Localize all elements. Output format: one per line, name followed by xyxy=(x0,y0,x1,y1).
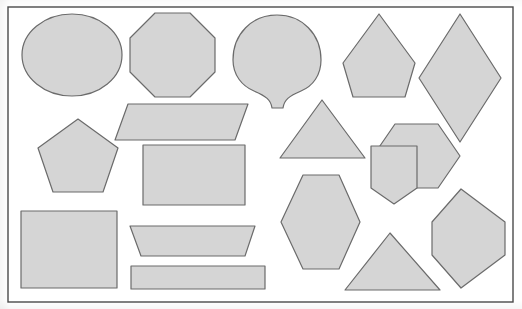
shape-parallelogram[interactable] xyxy=(115,104,248,140)
shape-thin-rectangle[interactable] xyxy=(131,266,265,289)
shape-octagon[interactable] xyxy=(130,13,215,97)
shape-trapezoid[interactable] xyxy=(130,226,255,256)
shape-rectangle[interactable] xyxy=(143,145,245,205)
shape-square[interactable] xyxy=(21,211,117,288)
worksheet-canvas xyxy=(0,0,522,309)
shape-circle[interactable] xyxy=(22,14,122,96)
shapes-sheet xyxy=(0,0,522,309)
